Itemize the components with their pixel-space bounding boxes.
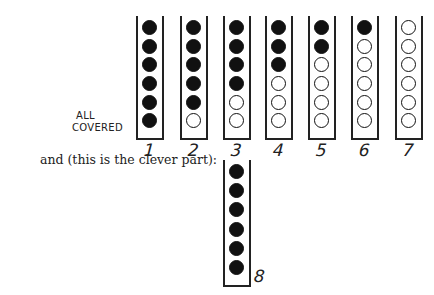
hole-filled-icon [314, 39, 329, 54]
hole-empty-icon [357, 95, 372, 110]
hole-empty-icon [401, 20, 416, 35]
hole-filled-icon [229, 164, 244, 179]
hole-filled-icon [314, 20, 329, 35]
hole-filled-icon [186, 20, 201, 35]
hole-filled-icon [271, 20, 286, 35]
hole-filled-icon [186, 76, 201, 91]
column-label: 3 [230, 140, 242, 160]
hole-empty-icon [271, 95, 286, 110]
column-label: 6 [358, 140, 370, 160]
hole-filled-icon [142, 76, 157, 91]
hole-empty-icon [401, 76, 416, 91]
hole-filled-icon [229, 222, 244, 237]
hole-empty-icon [314, 95, 329, 110]
hole-filled-icon [186, 95, 201, 110]
hole-empty-icon [357, 39, 372, 54]
hole-filled-icon [271, 39, 286, 54]
hole-filled-icon [357, 20, 372, 35]
hole-filled-icon [142, 95, 157, 110]
hole-filled-icon [229, 241, 244, 256]
hole-empty-icon [401, 39, 416, 54]
hole-empty-icon [229, 95, 244, 110]
column-label: 4 [272, 140, 284, 160]
column-label: 5 [315, 140, 327, 160]
hole-filled-icon [142, 20, 157, 35]
column-label: 7 [402, 140, 414, 160]
column-label: 8 [253, 266, 265, 286]
hole-filled-icon [229, 76, 244, 91]
hole-filled-icon [186, 39, 201, 54]
hole-filled-icon [229, 39, 244, 54]
annotation-all: ALL [76, 110, 95, 122]
hole-empty-icon [314, 76, 329, 91]
hole-filled-icon [142, 39, 157, 54]
hole-empty-icon [401, 95, 416, 110]
hole-filled-icon [229, 20, 244, 35]
annotation-covered: COVERED [72, 122, 123, 134]
hole-filled-icon [229, 260, 244, 275]
hole-empty-icon [357, 76, 372, 91]
caption-text: and (this is the clever part): [40, 152, 217, 167]
hole-empty-icon [271, 76, 286, 91]
